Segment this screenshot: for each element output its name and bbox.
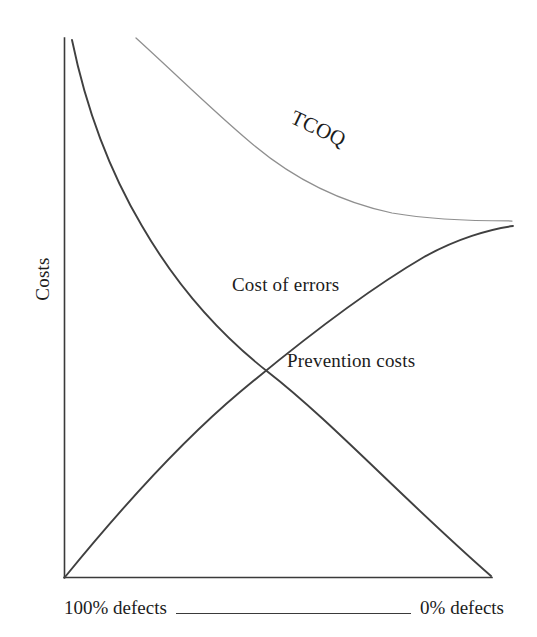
x-axis-label-left: 100% defects [64, 597, 167, 619]
x-axis-caption: 100% defects 0% defects [64, 594, 504, 622]
cost-of-quality-chart: Costs TCOQ Cost of errors Prevention cos… [0, 0, 537, 637]
prevention-costs-series-label: Prevention costs [287, 350, 415, 372]
cost-of-errors-series-label: Cost of errors [232, 274, 339, 296]
chart-plot-area [0, 0, 537, 637]
x-axis-caption-rule [176, 613, 411, 614]
y-axis-label: Costs [32, 234, 54, 324]
x-axis-label-right: 0% defects [420, 597, 504, 619]
